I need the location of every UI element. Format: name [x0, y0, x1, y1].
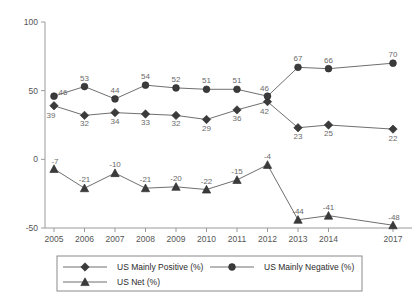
data-point-label: 39 [47, 111, 56, 120]
data-point-label: 23 [294, 132, 303, 141]
data-point-label: 32 [172, 119, 181, 128]
chart-legend: US Mainly Positive (%)US Mainly Negative… [57, 256, 362, 291]
x-tick-label: 2008 [136, 234, 155, 244]
x-tick-label: 2007 [106, 234, 125, 244]
data-point-label: 34 [111, 117, 120, 126]
data-point-label: 29 [202, 124, 211, 133]
x-tick-label: 2010 [197, 234, 216, 244]
line-chart: 100500-50 200520062007200820092010201120… [0, 0, 419, 295]
x-tick-label: 2005 [45, 234, 64, 244]
chart-background [0, 0, 419, 295]
data-point-label: 67 [294, 54, 303, 63]
y-tick-label: -50 [26, 223, 39, 233]
data-point-circle [229, 264, 236, 271]
legend-item-2[interactable]: US Mainly Negative (%) [210, 262, 354, 272]
x-tick-label: 2011 [228, 234, 247, 244]
data-point-circle [390, 60, 397, 67]
data-point-label: 46 [59, 88, 68, 97]
x-tick-label: 2014 [319, 234, 338, 244]
data-point-label: 53 [80, 74, 89, 83]
data-point-label: -48 [388, 213, 400, 222]
data-point-label: 44 [111, 86, 120, 95]
data-point-label: 22 [389, 134, 398, 143]
data-point-label: 33 [141, 118, 150, 127]
data-point-label: -20 [170, 174, 182, 183]
data-point-label: 32 [80, 119, 89, 128]
data-point-circle [234, 86, 241, 93]
data-point-label: -41 [323, 203, 335, 212]
y-tick-label: 100 [24, 17, 38, 27]
data-point-label: 51 [233, 76, 242, 85]
data-point-label: 46 [260, 84, 269, 93]
x-tick-label: 2012 [258, 234, 277, 244]
data-point-circle [173, 85, 180, 92]
legend-item-label: US Mainly Positive (%) [117, 262, 204, 272]
data-point-circle [112, 96, 119, 103]
data-point-circle [264, 93, 271, 100]
data-point-label: 42 [260, 107, 269, 116]
data-point-label: 36 [233, 114, 242, 123]
data-point-label: -10 [109, 160, 121, 169]
x-tick-label: 2006 [75, 234, 94, 244]
data-point-circle [51, 93, 58, 100]
data-point-label: 54 [141, 72, 150, 81]
data-point-label: -15 [231, 167, 243, 176]
data-point-label: 52 [172, 75, 181, 84]
data-point-label: 51 [202, 76, 211, 85]
x-tick-label: 2009 [167, 234, 186, 244]
data-point-label: -44 [292, 207, 304, 216]
x-tick-label: 2013 [289, 234, 308, 244]
legend-item-label: US Mainly Negative (%) [264, 262, 354, 272]
data-point-label: -4 [264, 152, 272, 161]
data-point-circle [142, 82, 149, 89]
legend-item-1[interactable]: US Mainly Positive (%) [63, 262, 204, 272]
data-point-label: 25 [324, 129, 333, 138]
data-point-circle [81, 83, 88, 90]
data-point-label: 66 [324, 56, 333, 65]
data-point-circle [203, 86, 210, 93]
data-point-label: 70 [389, 50, 398, 59]
y-tick-label: 0 [33, 154, 38, 164]
x-tick-label: 2017 [384, 234, 403, 244]
data-point-circle [295, 64, 302, 71]
y-tick-label: 50 [29, 86, 39, 96]
data-point-label: -7 [51, 157, 59, 166]
data-point-label: -21 [140, 175, 152, 184]
data-point-label: -22 [201, 177, 213, 186]
legend-item-label: US Net (%) [117, 277, 160, 287]
data-point-label: -21 [79, 175, 91, 184]
data-point-circle [325, 65, 332, 72]
chart-svg: 100500-50 200520062007200820092010201120… [0, 0, 419, 295]
